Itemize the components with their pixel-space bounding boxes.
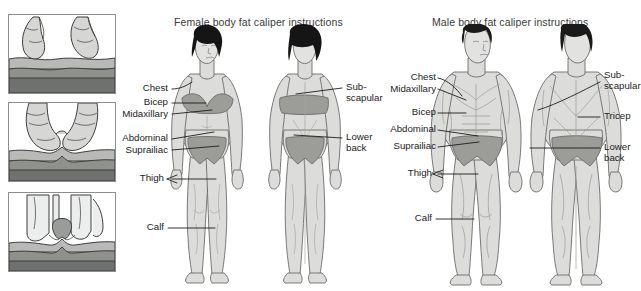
male-label-thigh: Thigh [376,168,432,179]
caliper-step-1-illustration [9,15,115,93]
male-label-bicep: Bicep [370,107,436,118]
male-label-lower-back: Lower back [604,142,630,163]
male-label-subscapular-line1: Sub- [604,69,624,80]
caliper-step-3-panel [8,192,116,272]
male-label-calf: Calf [380,213,432,224]
female-label-midaxillary: Midaxillary [88,109,168,120]
female-label-bicep: Bicep [100,97,168,108]
male-label-subscapular-line2: scapular [604,81,641,92]
male-label-chest: Chest [370,72,436,83]
female-label-calf: Calf [112,222,164,233]
male-label-subscapular: Sub- scapular [604,70,641,91]
caliper-step-1-panel [8,14,116,94]
male-label-lower-back-line2: back [604,153,630,164]
male-label-suprailiac: Suprailiac [356,141,436,152]
male-label-tricep: Tricep [604,111,631,122]
female-label-thigh: Thigh [108,173,164,184]
female-label-chest: Chest [100,83,168,94]
male-label-midaxillary: Midaxillary [356,84,436,95]
female-label-suprailiac: Suprailiac [88,145,168,156]
caliper-step-3-illustration [9,193,115,271]
female-label-abdominal: Abdominal [88,133,168,144]
male-label-lower-back-line1: Lower [604,141,630,152]
male-label-abdominal: Abdominal [356,124,436,135]
female-back-bra [280,95,329,115]
